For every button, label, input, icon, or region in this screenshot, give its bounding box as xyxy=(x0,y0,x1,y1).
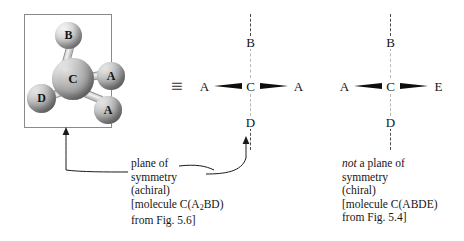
atom-a-upper: A xyxy=(97,62,125,90)
caption-chiral-line1-emphasis: not xyxy=(342,157,357,169)
caption-achiral-line2: symmetry xyxy=(131,171,223,185)
caption-chiral-line3: (chiral) xyxy=(342,184,438,198)
atom-b-label: B xyxy=(64,28,72,43)
mirror-plane-line-c-to-d xyxy=(250,94,251,116)
caption-chiral-line1-rest: a plane of xyxy=(357,157,405,169)
wedge-bond-right-chiral xyxy=(400,83,428,89)
caption-achiral-line3: (achiral) xyxy=(131,184,223,198)
caption-achiral-line5: from Fig. 5.6] xyxy=(131,214,223,228)
non-mirror-line-b-to-c xyxy=(390,48,391,78)
atom-c: C xyxy=(52,58,94,100)
caption-chiral: not a plane of symmetry (chiral) [molecu… xyxy=(342,157,438,225)
caption-chiral-line1: not a plane of xyxy=(342,157,438,171)
atom-a-lower: A xyxy=(94,96,122,124)
flat-structure-achiral: B C D A A xyxy=(196,0,308,160)
arrow-left-head xyxy=(63,127,70,135)
atom-d-label: D xyxy=(37,91,46,106)
atom-a-lower-label: A xyxy=(104,103,113,118)
atom-c-label: C xyxy=(68,71,77,87)
flat-achiral-center-label: C xyxy=(244,80,257,93)
non-mirror-line-upper xyxy=(390,14,391,36)
wedge-bond-left-chiral xyxy=(354,83,382,89)
flat-achiral-right-label: A xyxy=(292,80,305,93)
caption-chiral-line4: [molecule C(ABDE) xyxy=(342,198,438,212)
non-mirror-line-c-to-d xyxy=(390,94,391,116)
flat-achiral-top-label: B xyxy=(244,36,257,49)
mirror-plane-line-lower xyxy=(250,128,251,150)
flat-achiral-left-label: A xyxy=(198,80,211,93)
caption-chiral-line2: symmetry xyxy=(342,171,438,185)
non-mirror-line-lower xyxy=(390,128,391,150)
flat-structure-chiral: B C D A E xyxy=(336,0,448,160)
identity-symbol: ≡ xyxy=(171,76,183,97)
mirror-plane-line-b-to-c xyxy=(250,48,251,78)
atom-b: B xyxy=(55,22,82,49)
caption-achiral-line4-pre: [molecule C(A xyxy=(131,198,200,210)
arrow-left-shaft-curve xyxy=(66,170,128,172)
mirror-plane-line-upper xyxy=(250,14,251,36)
flat-chiral-left-label: A xyxy=(338,80,351,93)
flat-achiral-bottom-label: D xyxy=(244,116,257,129)
atom-a-upper-label: A xyxy=(107,69,116,84)
caption-achiral: plane of symmetry (achiral) [molecule C(… xyxy=(131,157,223,228)
chirality-figure: B C A A D ≡ B C D A A B xyxy=(0,0,464,241)
atom-d: D xyxy=(27,84,56,113)
flat-chiral-right-label: E xyxy=(432,80,445,93)
caption-chiral-line5: from Fig. 5.4] xyxy=(342,211,438,225)
caption-achiral-line4-post: BD) xyxy=(204,198,224,210)
flat-chiral-center-label: C xyxy=(384,80,397,93)
caption-achiral-line1: plane of xyxy=(131,157,223,171)
wedge-bond-right-achiral xyxy=(260,83,288,89)
wedge-bond-left-achiral xyxy=(214,83,242,89)
caption-achiral-line4: [molecule C(A2BD) xyxy=(131,198,223,214)
flat-chiral-bottom-label: D xyxy=(384,116,397,129)
flat-chiral-top-label: B xyxy=(384,36,397,49)
